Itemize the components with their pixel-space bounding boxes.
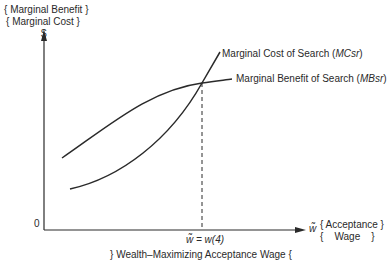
y-axis-label-line2: { Marginal Cost } — [6, 16, 80, 28]
intersection-caption: } Wealth–Maximizing Acceptance Wage { — [110, 249, 292, 261]
x-axis-arrow-icon — [295, 227, 306, 233]
mc-curve-label: Marginal Cost of Search (MCsr) — [222, 48, 363, 60]
x-axis-symbol: w̃ — [309, 223, 316, 235]
origin-label: 0 — [34, 218, 40, 230]
x-axis-label-line2: { Wage } — [320, 231, 375, 243]
y-axis-unit: $ — [41, 28, 47, 40]
mb-curve-label: Marginal Benefit of Search (MBsr) — [236, 73, 387, 85]
y-axis-label-line1: { Marginal Benefit } — [4, 4, 89, 16]
intersection-tick-label: w̃ = w(4) — [186, 234, 224, 246]
marginal-benefit-curve — [62, 79, 232, 158]
marginal-cost-curve — [70, 52, 220, 189]
x-axis-label-line1: { Acceptance } — [320, 219, 384, 231]
